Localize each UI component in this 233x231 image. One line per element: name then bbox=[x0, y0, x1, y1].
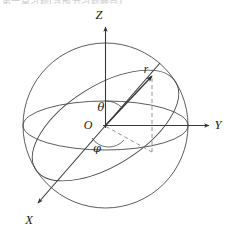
axis-label-z: Z bbox=[96, 8, 104, 22]
radius-label-r: r bbox=[144, 63, 149, 75]
dashed-xy-projection bbox=[106, 127, 152, 153]
origin-label: O bbox=[84, 118, 93, 132]
diagram-canvas: Z Y X O r θ φ bbox=[0, 0, 233, 231]
axis-label-y: Y bbox=[215, 118, 224, 132]
angle-label-theta: θ bbox=[98, 100, 105, 114]
spherical-coordinate-figure: 第一章习题(含部分习题解答)⑥ Z bbox=[0, 0, 233, 231]
axis-label-x: X bbox=[24, 213, 34, 227]
axis-x-line bbox=[38, 63, 160, 203]
angle-label-phi: φ bbox=[93, 141, 101, 155]
angle-arc-theta bbox=[106, 101, 123, 108]
